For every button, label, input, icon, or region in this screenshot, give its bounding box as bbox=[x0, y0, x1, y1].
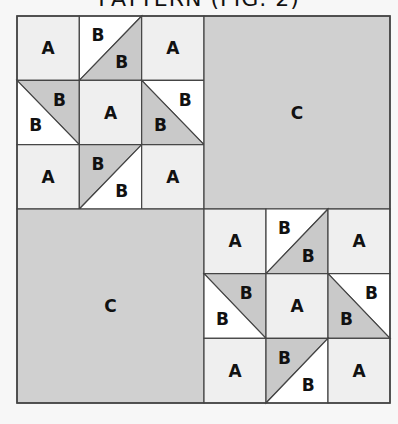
label-b: B bbox=[92, 154, 105, 174]
label-b: B bbox=[92, 25, 105, 45]
label-b: B bbox=[53, 90, 66, 110]
label-b: B bbox=[302, 375, 315, 395]
label-a: A bbox=[42, 38, 56, 58]
label-a: A bbox=[290, 296, 304, 316]
label-c: C bbox=[104, 296, 116, 316]
label-b: B bbox=[216, 309, 229, 329]
label-c: C bbox=[291, 103, 303, 123]
label-b: B bbox=[340, 309, 353, 329]
label-b: B bbox=[278, 348, 291, 368]
quilt-diagram: ABBABBABBABBACCABBABBABBABBA bbox=[0, 0, 398, 424]
label-b: B bbox=[365, 283, 378, 303]
label-b: B bbox=[154, 115, 167, 135]
label-b: B bbox=[115, 181, 128, 201]
label-a: A bbox=[42, 167, 56, 187]
label-a: A bbox=[166, 167, 180, 187]
label-a: A bbox=[352, 361, 366, 381]
label-b: B bbox=[302, 246, 315, 266]
label-a: A bbox=[104, 103, 118, 123]
label-a: A bbox=[352, 231, 366, 251]
label-b: B bbox=[278, 218, 291, 238]
label-b: B bbox=[115, 52, 128, 72]
label-b: B bbox=[179, 90, 192, 110]
label-a: A bbox=[166, 38, 180, 58]
label-b: B bbox=[240, 283, 253, 303]
label-a: A bbox=[228, 361, 242, 381]
label-a: A bbox=[228, 231, 242, 251]
label-b: B bbox=[29, 115, 42, 135]
